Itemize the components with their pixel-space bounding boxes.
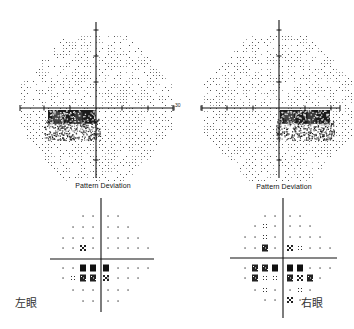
right-eye-label: 右眼 (301, 294, 323, 310)
axis-scale-label: 30 (175, 102, 181, 108)
right-eye-grayscale-plot (201, 20, 354, 181)
left-eye-label: 左眼 (15, 294, 37, 310)
visual-field-figure: 30 Pattern Deviation Pattern Deviation 左… (0, 0, 354, 329)
right-pattern-deviation-title: Pattern Deviation (256, 183, 311, 190)
left-eye-pattern-deviation-plot (50, 198, 154, 312)
left-eye-grayscale-plot (20, 22, 174, 181)
visual-field-canvas (0, 0, 354, 329)
left-pattern-deviation-title: Pattern Deviation (75, 182, 130, 189)
